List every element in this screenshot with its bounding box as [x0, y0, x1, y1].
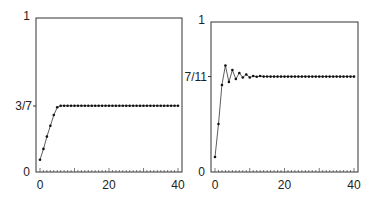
data-point — [94, 104, 97, 107]
data-point — [217, 123, 220, 126]
data-point — [332, 75, 335, 78]
data-point — [269, 75, 272, 78]
data-point — [321, 75, 324, 78]
data-point — [214, 156, 217, 159]
data-point — [59, 104, 62, 107]
data-point — [63, 104, 66, 107]
data-point — [122, 104, 125, 107]
data-point — [132, 104, 135, 107]
data-point — [290, 75, 293, 78]
data-point — [311, 75, 314, 78]
x-tick-label: 40 — [347, 178, 361, 192]
data-point — [84, 104, 87, 107]
data-point — [115, 104, 118, 107]
data-point — [139, 104, 142, 107]
data-point — [248, 76, 251, 79]
data-point — [339, 75, 342, 78]
data-point — [224, 64, 227, 67]
data-point — [294, 75, 297, 78]
data-point — [349, 75, 352, 78]
data-point — [49, 125, 52, 128]
data-point — [318, 75, 321, 78]
data-point — [111, 104, 114, 107]
data-point — [125, 104, 128, 107]
data-point — [245, 73, 248, 76]
y-tick-label: 0 — [198, 165, 205, 179]
data-point — [108, 104, 111, 107]
data-point — [101, 104, 104, 107]
data-point — [335, 75, 338, 78]
data-point — [118, 104, 121, 107]
data-point — [301, 75, 304, 78]
data-point — [276, 75, 279, 78]
data-point — [273, 75, 276, 78]
data-point — [146, 104, 149, 107]
data-point — [297, 75, 300, 78]
data-point — [342, 75, 345, 78]
plot-frame — [36, 18, 182, 172]
data-point — [73, 104, 76, 107]
x-tick-label: 40 — [171, 178, 185, 192]
chart-canvas: 02040013/702040017/11 — [0, 0, 374, 202]
data-point — [46, 135, 49, 138]
y-limit-label: 3/7 — [15, 99, 32, 113]
data-point — [173, 104, 176, 107]
data-point — [77, 104, 80, 107]
data-point — [159, 104, 162, 107]
y-limit-label: 7/11 — [185, 70, 208, 84]
data-point — [53, 114, 56, 117]
data-point — [325, 75, 328, 78]
series-line — [40, 106, 178, 160]
data-point — [266, 75, 269, 78]
plot-frame — [211, 22, 358, 172]
data-point — [90, 104, 93, 107]
data-point — [166, 104, 169, 107]
data-point — [135, 104, 138, 107]
data-point — [287, 75, 290, 78]
x-tick-label: 20 — [102, 178, 116, 192]
data-point — [283, 75, 286, 78]
x-tick-label: 0 — [212, 178, 219, 192]
data-point — [304, 75, 307, 78]
data-point — [280, 75, 283, 78]
data-point — [66, 104, 69, 107]
data-point — [142, 104, 145, 107]
data-point — [228, 81, 231, 84]
data-point — [97, 104, 100, 107]
data-point — [252, 75, 255, 78]
data-point — [328, 75, 331, 78]
data-point — [242, 76, 245, 79]
data-point — [262, 75, 265, 78]
data-point — [149, 104, 152, 107]
data-point — [56, 106, 59, 109]
x-tick-label: 0 — [37, 178, 44, 192]
data-point — [163, 104, 166, 107]
y-tick-label: 0 — [23, 165, 30, 179]
data-point — [314, 75, 317, 78]
data-point — [39, 158, 42, 161]
data-point — [104, 104, 107, 107]
data-point — [221, 84, 224, 87]
data-point — [346, 75, 349, 78]
x-tick-label: 20 — [278, 178, 292, 192]
data-point — [308, 75, 311, 78]
data-point — [87, 104, 90, 107]
data-point — [156, 104, 159, 107]
data-point — [153, 104, 156, 107]
data-point — [80, 104, 83, 107]
data-point — [128, 104, 131, 107]
data-point — [177, 104, 180, 107]
y-tick-label: 1 — [198, 13, 205, 27]
data-point — [42, 148, 45, 151]
data-point — [170, 104, 173, 107]
data-point — [259, 75, 262, 78]
data-point — [353, 75, 356, 78]
data-point — [238, 72, 241, 75]
data-point — [231, 69, 234, 72]
data-point — [235, 78, 238, 81]
data-point — [255, 75, 258, 78]
data-point — [70, 104, 73, 107]
y-tick-label: 1 — [23, 9, 30, 23]
